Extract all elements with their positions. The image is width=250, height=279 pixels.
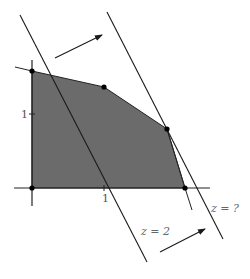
y-tick-label: 1 [21, 108, 28, 121]
constraint-line-top [15, 67, 32, 71]
vertex-origin [29, 185, 34, 190]
direction-arrow-top [55, 35, 102, 58]
vertex-upper [101, 84, 106, 89]
feasible-region [32, 71, 185, 188]
label-z-equals-unknown: z = ? [210, 202, 239, 215]
vertex-y-intercept [29, 68, 34, 73]
vertex-x-intercept [182, 185, 187, 190]
label-z-equals-2: z = 2 [140, 225, 170, 238]
constraint-line-right [185, 188, 192, 210]
x-tick-label: 1 [102, 192, 109, 205]
lp-diagram: 1 1 z = 2 z = ? [0, 0, 250, 279]
vertex-optimal [164, 126, 169, 131]
